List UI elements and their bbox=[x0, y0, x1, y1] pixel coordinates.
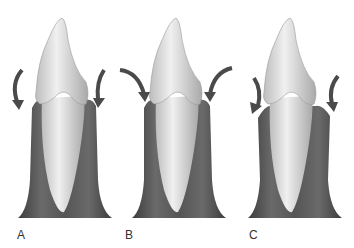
arrow-right bbox=[98, 70, 104, 100]
panel-label-b: B bbox=[125, 228, 133, 242]
panel-label-c: C bbox=[249, 228, 258, 242]
tooth-illustration-c bbox=[236, 0, 354, 248]
tooth-illustration-b bbox=[118, 0, 236, 248]
tooth-crown bbox=[150, 18, 203, 105]
arrow-right bbox=[331, 76, 338, 104]
arrow-left-head bbox=[138, 92, 150, 102]
tooth-illustration-a bbox=[0, 0, 118, 248]
tooth-crown bbox=[36, 18, 89, 105]
panel-c: C bbox=[236, 0, 354, 248]
panel-label-a: A bbox=[17, 228, 25, 242]
arrow-right bbox=[210, 68, 232, 94]
arrow-left bbox=[120, 70, 144, 94]
arrow-left bbox=[254, 78, 259, 106]
arrow-right-head bbox=[204, 92, 216, 102]
arrow-left bbox=[15, 70, 22, 104]
arrow-right-head bbox=[326, 102, 338, 112]
arrow-left-head bbox=[12, 100, 24, 110]
panel-b: B bbox=[118, 0, 236, 248]
panel-a: A bbox=[0, 0, 118, 248]
tooth-crown bbox=[264, 18, 317, 105]
